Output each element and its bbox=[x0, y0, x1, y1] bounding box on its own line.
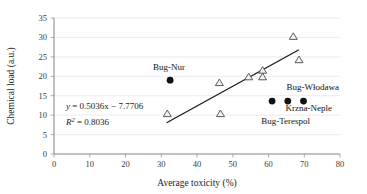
trendline bbox=[167, 50, 299, 123]
data-point-triangle bbox=[163, 110, 171, 117]
x-tick-label: 10 bbox=[86, 159, 95, 169]
r-squared-annotation: R2 = 0.8036 bbox=[65, 116, 110, 127]
x-tick-label: 20 bbox=[121, 159, 130, 169]
x-tick-label: 50 bbox=[229, 159, 238, 169]
x-tick-label: 0 bbox=[52, 159, 56, 169]
x-axis bbox=[54, 154, 340, 158]
x-tick-label: 40 bbox=[193, 159, 202, 169]
y-tick-label: 5 bbox=[43, 130, 47, 140]
point-label-bug-nur: Bug-Nur bbox=[153, 62, 185, 72]
data-point-dot-bug-nur bbox=[167, 77, 174, 84]
x-tick-label: 30 bbox=[157, 159, 166, 169]
y-tick-label: 35 bbox=[39, 13, 48, 23]
data-point-triangle bbox=[215, 79, 223, 86]
equation-body: = 0.5036x − 7.7706 bbox=[70, 101, 144, 111]
x-tick-labels: 0 10 20 30 40 50 60 70 80 bbox=[52, 159, 344, 169]
triangle-markers bbox=[163, 33, 303, 117]
point-label-bug-terespol: Bug-Terespol bbox=[261, 116, 310, 126]
regression-equation: y = 0.5036x − 7.7706 bbox=[65, 101, 144, 111]
r-value: = 0.8036 bbox=[75, 117, 110, 127]
y-tick-label: 20 bbox=[39, 71, 48, 81]
scatter-chart: 35 30 25 20 15 10 5 0 0 10 20 30 bbox=[0, 0, 367, 194]
point-label-bug-wlodawa: Bug-Włodawa bbox=[287, 82, 339, 92]
x-tick-label: 70 bbox=[300, 159, 309, 169]
y-axis bbox=[51, 18, 55, 154]
y-tick-label: 0 bbox=[43, 149, 47, 159]
y-tick-label: 10 bbox=[39, 110, 48, 120]
y-tick-label: 25 bbox=[39, 52, 48, 62]
y-tick-label: 30 bbox=[39, 32, 48, 42]
data-point-triangle bbox=[217, 110, 225, 117]
y-tick-labels: 35 30 25 20 15 10 5 0 bbox=[39, 13, 48, 159]
y-tick-label: 15 bbox=[39, 91, 48, 101]
plot-area: 35 30 25 20 15 10 5 0 0 10 20 30 bbox=[0, 0, 367, 194]
y-axis-title: Chemical load (a.u.) bbox=[6, 47, 17, 125]
data-point-triangle bbox=[289, 33, 297, 40]
point-label-krzna-neple: Krzna-Neple bbox=[286, 103, 332, 113]
x-tick-label: 80 bbox=[336, 159, 345, 169]
data-point-dot-bug-terespol bbox=[269, 98, 276, 105]
x-axis-title: Average toxicity (%) bbox=[157, 178, 236, 189]
x-tick-label: 60 bbox=[264, 159, 273, 169]
